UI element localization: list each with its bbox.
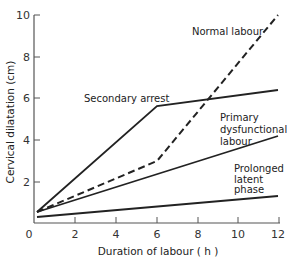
x-tick-label: 12: [271, 228, 285, 241]
label-primary-1: Primary: [220, 112, 259, 123]
x-tick-label: 2: [72, 228, 79, 241]
x-tick-label: 8: [195, 228, 202, 241]
chart: 10 8 6 4 2 0 2 4 6 8 10 12 Duration of l…: [0, 0, 296, 261]
label-normal-labour: Normal labour: [192, 26, 264, 37]
y-axis-title: Cervical dilatation (cm): [4, 61, 16, 184]
label-prolonged-1: Prolonged: [234, 163, 284, 174]
label-prolonged-3: phase: [234, 184, 264, 195]
x-ticks: [75, 217, 279, 223]
label-primary-2: dysfunctional: [220, 124, 287, 135]
x-tick-label: 10: [231, 228, 245, 241]
label-primary-3: labour: [220, 136, 253, 147]
y-ticks: [34, 15, 40, 182]
x-tick-label: 6: [154, 228, 161, 241]
x-axis-title: Duration of labour ( h ): [98, 245, 219, 257]
y-tick-label: 2: [23, 176, 30, 189]
x-tick-label: 4: [113, 228, 120, 241]
y-tick-label: 8: [23, 51, 30, 64]
x-tick-label: 0: [26, 228, 33, 241]
y-tick-label: 10: [16, 9, 30, 22]
series-prolonged-latent: [37, 196, 278, 217]
label-secondary-arrest: Secondary arrest: [84, 93, 169, 104]
y-tick-label: 6: [23, 92, 30, 105]
y-tick-label: 4: [23, 134, 30, 147]
